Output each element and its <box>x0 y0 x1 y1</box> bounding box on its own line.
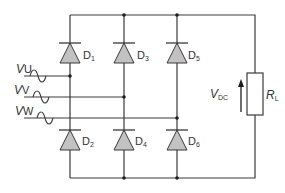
diode-icon <box>114 43 134 63</box>
diode-d4-label: D4 <box>135 135 147 148</box>
input-labels: VU VV VW <box>14 62 34 118</box>
bottom-rail-wire <box>70 115 255 178</box>
load-resistor: RL <box>247 73 279 115</box>
diode-d6: D6 <box>166 130 200 150</box>
diode-d1: D1 <box>59 43 95 63</box>
diode-d3-label: D3 <box>137 49 149 62</box>
junction-dot <box>122 13 126 17</box>
phase-v-label: VV <box>14 83 30 97</box>
diode-icon <box>167 43 187 63</box>
top-rail-wire <box>70 15 255 73</box>
diode-d1-label: D1 <box>83 49 95 62</box>
diode-d5-label: D5 <box>188 49 200 62</box>
rectifier-circuit-diagram: VU VV VW D1 D3 D5 D2 <box>0 0 285 193</box>
junction-dot <box>175 13 179 17</box>
diode-icon <box>114 130 134 150</box>
junction-dot <box>68 74 72 78</box>
diode-d2: D2 <box>59 130 94 150</box>
arrow-up-icon <box>238 79 244 87</box>
junction-dot <box>175 176 179 180</box>
diode-icon <box>167 130 187 150</box>
phase-w-label: VW <box>15 104 34 118</box>
diode-d6-label: D6 <box>188 135 200 148</box>
diode-icon <box>60 130 80 150</box>
diode-d5: D5 <box>166 43 200 63</box>
diode-d2-label: D2 <box>82 135 94 148</box>
diode-d4: D4 <box>113 130 147 150</box>
load-resistor-label: RL <box>266 88 279 102</box>
phase-u-label: VU <box>16 62 32 76</box>
output-voltage: VDC <box>210 79 244 112</box>
junction-dot <box>122 95 126 99</box>
junction-dot <box>175 116 179 120</box>
junction-dot <box>122 176 126 180</box>
diode-d3: D3 <box>113 43 149 63</box>
diode-icon <box>60 43 80 63</box>
resistor-icon <box>247 73 263 115</box>
output-voltage-label: VDC <box>210 87 228 101</box>
